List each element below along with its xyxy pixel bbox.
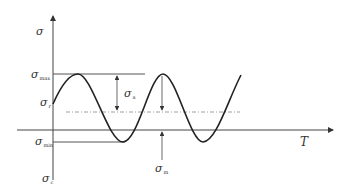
time-axis-label: T — [300, 136, 308, 148]
sigma-r-label: σr — [40, 97, 51, 109]
stress-curve — [53, 74, 241, 142]
sigma-m-label: σm — [155, 163, 168, 175]
sigma-label: σ — [36, 26, 44, 37]
sigma-min-label: σmin — [35, 136, 53, 148]
sigma-a-label: σa — [124, 88, 136, 100]
sigma-c-label: σc — [42, 173, 53, 185]
stress-cycle-diagram — [0, 0, 344, 193]
sigma-max-label: σmax — [31, 69, 50, 81]
